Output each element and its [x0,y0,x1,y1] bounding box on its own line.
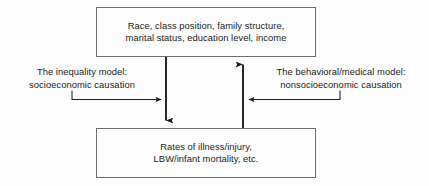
outcomes-box-line-1: Rates of illness/injury, [160,141,252,153]
right-elbow-connector [249,91,340,100]
behavioral-model-label: The behavioral/medical model: nonsocioec… [256,66,426,91]
outcomes-box: Rates of illness/injury, LBW/infant mort… [96,128,316,178]
causation-model-diagram: Race, class position, family structure, … [0,0,429,186]
inequality-model-label: The inequality model: socioeconomic caus… [6,66,158,91]
behavioral-model-label-line-1: The behavioral/medical model: [256,66,426,79]
factors-box: Race, class position, family structure, … [96,7,316,57]
left-elbow-connector [72,91,161,100]
behavioral-model-label-line-2: nonsocioeconomic causation [256,79,426,92]
factors-box-line-1: Race, class position, family structure, [128,20,285,32]
factors-box-line-2: marital status, education level, income [126,32,287,44]
inequality-model-label-line-1: The inequality model: [6,66,158,79]
inequality-model-label-line-2: socioeconomic causation [6,79,158,92]
outcomes-box-line-2: LBW/infant mortality, etc. [154,153,259,165]
